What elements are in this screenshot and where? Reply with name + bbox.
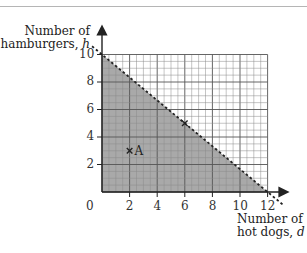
y-tick-label: 4 (87, 129, 95, 143)
x-tick-label: 12 (260, 199, 275, 213)
x-axis-label: Number of hot dogs, d (237, 213, 305, 239)
y-axis-label: Number of hamburgers, h (1, 25, 90, 51)
y-tick-label: 8 (87, 74, 95, 88)
x-tick-label: 2 (126, 199, 134, 213)
x-tick-label: 10 (233, 199, 248, 213)
x-tick-label: 4 (153, 199, 161, 213)
y-tick-label: 6 (87, 102, 95, 116)
x-tick-label: 6 (181, 199, 189, 213)
y-tick-label: 2 (87, 157, 95, 171)
origin-label: 0 (86, 199, 94, 213)
y-tick-label: 10 (79, 47, 94, 61)
x-tick-label: 8 (209, 199, 217, 213)
point-label: A (134, 144, 144, 158)
